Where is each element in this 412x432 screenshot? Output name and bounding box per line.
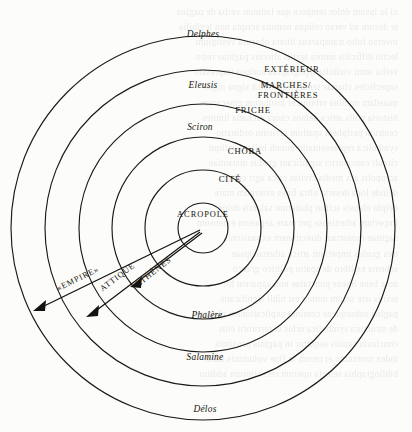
place-label-delos: Délos <box>192 404 216 414</box>
ring-label-chora: CHÔRA <box>228 146 262 156</box>
place-label-sciron: Sciron <box>187 122 213 132</box>
place-label-eleusis: Eleusis <box>188 80 218 90</box>
ring-label-cite: CITÉ <box>219 174 242 184</box>
arrow-empire-head <box>33 300 46 311</box>
ring-exterieur <box>11 36 395 420</box>
arrow-label-empire: «EMPIRE» <box>55 265 100 293</box>
ring-label-frontieres: FRONTIÈRES <box>258 90 319 100</box>
place-label-delphes: Delphes <box>186 29 220 39</box>
arrow-attique-head <box>86 305 99 317</box>
place-labels-group: Delphes Eleusis Sciron Phalère Salamine … <box>186 29 224 414</box>
concentric-circles-diagram: Delphes Eleusis Sciron Phalère Salamine … <box>0 0 412 432</box>
ring-chora <box>112 137 294 319</box>
rings-group <box>11 36 395 420</box>
arrows-group: «EMPIRE» ATTIQUE ATHÈNES <box>33 230 202 317</box>
place-label-phalere: Phalère <box>190 310 222 320</box>
arrow-athenes: ATHÈNES <box>130 233 202 289</box>
figure-page: ni lo ipsum dolor tempore que latinum ve… <box>0 0 412 432</box>
ring-label-exterieur: EXTÉRIEUR <box>264 64 319 74</box>
place-label-salamine: Salamine <box>187 352 224 362</box>
ring-label-acropole: ACROPOLE <box>177 210 229 219</box>
ring-label-friche: FRICHE <box>235 105 271 115</box>
ring-marches <box>45 70 361 386</box>
arrow-empire: «EMPIRE» <box>33 230 200 311</box>
ring-label-marches: MARCHES/ <box>261 80 312 90</box>
